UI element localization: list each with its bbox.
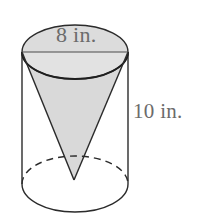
geometry-figure-cone-in-cylinder: 8 in. 10 in. [0,0,199,217]
diameter-label: 8 in. [56,24,97,46]
height-label: 10 in. [133,101,183,122]
